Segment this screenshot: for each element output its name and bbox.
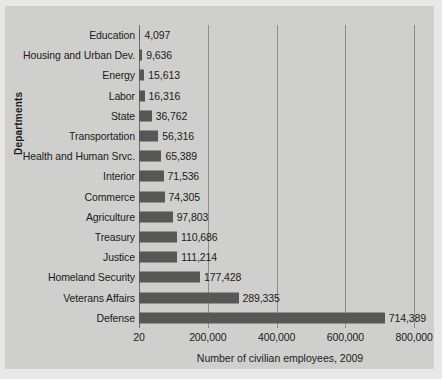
bar-value-label: 56,316 xyxy=(162,131,194,142)
bar xyxy=(139,110,152,121)
category-label: Commerce xyxy=(0,191,135,202)
bar-row: Veterans Affairs289,335 xyxy=(0,288,442,308)
x-axis-tick-label: 200,000 xyxy=(189,331,226,343)
bar-row: State36,762 xyxy=(0,106,442,126)
bar xyxy=(139,292,239,303)
bar xyxy=(139,30,140,41)
bar xyxy=(139,252,177,263)
bar-value-label: 74,305 xyxy=(169,191,201,202)
bar-row: Justice111,214 xyxy=(0,247,442,267)
bar-value-label: 9,636 xyxy=(146,50,172,61)
bar-rows: Education4,097Housing and Urban Dev.9,63… xyxy=(0,25,442,328)
bar-value-label: 289,335 xyxy=(243,292,280,303)
bar-row: Treasury110,686 xyxy=(0,227,442,247)
bar-value-label: 15,613 xyxy=(148,70,180,81)
bar xyxy=(139,50,142,61)
bar-value-label: 110,686 xyxy=(181,232,217,243)
bar xyxy=(139,312,385,323)
category-label: Defense xyxy=(0,312,135,323)
page-border-top xyxy=(0,0,442,6)
x-axis-tick-labels: 20200,000400,000600,000800,000 xyxy=(0,331,442,345)
bar-value-label: 4,097 xyxy=(144,30,170,41)
category-label: Treasury xyxy=(0,232,135,243)
bar xyxy=(139,272,200,283)
bar-row: Interior71,536 xyxy=(0,166,442,186)
bar xyxy=(139,131,158,142)
x-axis-title: Number of civilian employees, 2009 xyxy=(139,352,421,364)
category-label: Interior xyxy=(0,171,135,182)
bar-value-label: 111,214 xyxy=(181,252,217,263)
category-label: Housing and Urban Dev. xyxy=(0,50,135,61)
bar xyxy=(139,232,177,243)
x-axis-tick-label: 800,000 xyxy=(395,331,432,343)
bar-row: Homeland Security177,428 xyxy=(0,267,442,287)
bar-row: Labor16,316 xyxy=(0,86,442,106)
page-border-bottom xyxy=(0,369,442,379)
x-axis-tick-label: 20 xyxy=(133,331,144,343)
x-axis-tick-label: 600,000 xyxy=(327,331,364,343)
bar-row: Energy15,613 xyxy=(0,65,442,85)
bar xyxy=(139,151,161,162)
bar-row: Transportation56,316 xyxy=(0,126,442,146)
category-label: Veterans Affairs xyxy=(0,292,135,303)
bar-value-label: 65,389 xyxy=(165,151,197,162)
bar-value-label: 177,428 xyxy=(204,272,241,283)
x-axis-tick-label: 400,000 xyxy=(258,331,295,343)
bar-value-label: 97,803 xyxy=(177,211,209,222)
bar-row: Commerce74,305 xyxy=(0,187,442,207)
bar xyxy=(139,211,173,222)
category-label: Energy xyxy=(0,70,135,81)
category-label: Homeland Security xyxy=(0,272,135,283)
bar-value-label: 16,316 xyxy=(149,90,181,101)
category-label: Education xyxy=(0,30,135,41)
bar-row: Education4,097 xyxy=(0,25,442,45)
bar-value-label: 71,536 xyxy=(168,171,200,182)
y-axis-title: Departments xyxy=(13,92,24,155)
category-label: Agriculture xyxy=(0,211,135,222)
bar xyxy=(139,171,164,182)
bar-row: Housing and Urban Dev.9,636 xyxy=(0,45,442,65)
category-label: Justice xyxy=(0,252,135,263)
bar-row: Agriculture97,803 xyxy=(0,207,442,227)
bar-value-label: 36,762 xyxy=(156,110,188,121)
bar-value-label: 714,389 xyxy=(389,312,426,323)
bar xyxy=(139,90,145,101)
bar xyxy=(139,70,144,81)
bar-row: Defense714,389 xyxy=(0,308,442,328)
bar-row: Health and Human Srvc.65,389 xyxy=(0,146,442,166)
bar xyxy=(139,191,165,202)
bar-chart-figure: Education4,097Housing and Urban Dev.9,63… xyxy=(0,0,442,379)
